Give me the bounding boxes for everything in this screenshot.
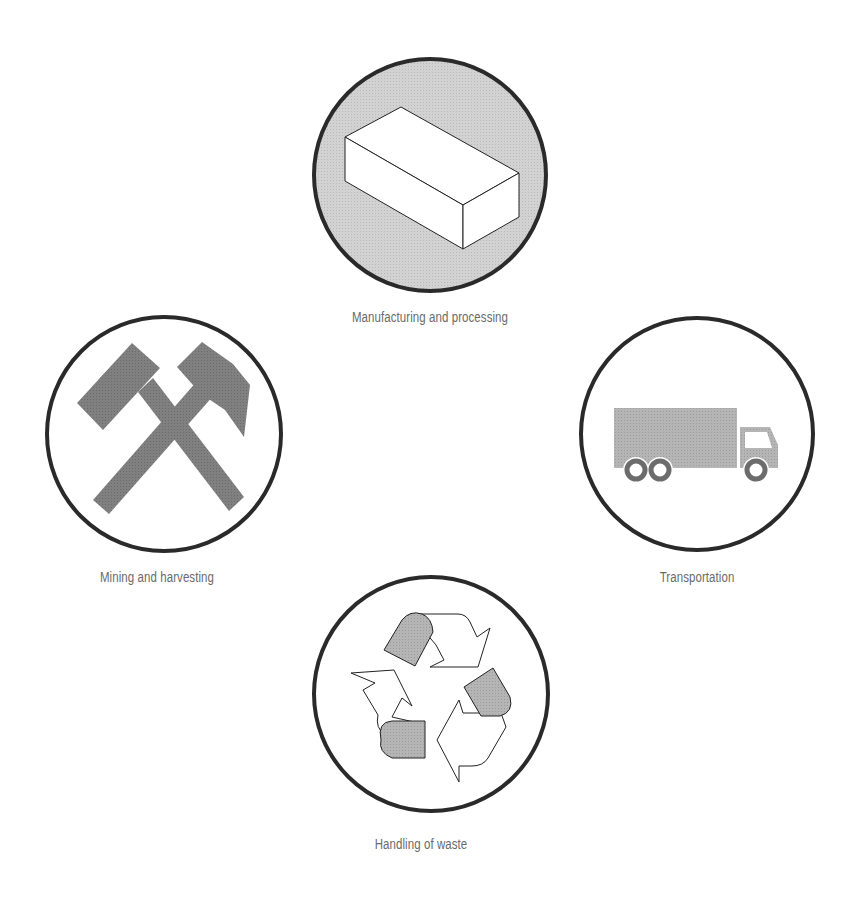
label-manufacturing: Manufacturing and processing [352, 309, 508, 325]
node-mining [47, 317, 281, 551]
circle-waste [314, 577, 548, 811]
node-waste [314, 577, 548, 811]
life-cycle-diagram: Manufacturing and processing Transportat… [0, 0, 856, 909]
diagram-canvas [0, 0, 856, 909]
label-transportation: Transportation [660, 569, 735, 585]
node-transportation [581, 318, 813, 550]
node-manufacturing [314, 59, 546, 291]
label-waste: Handling of waste [375, 836, 468, 852]
label-mining: Mining and harvesting [100, 569, 214, 585]
